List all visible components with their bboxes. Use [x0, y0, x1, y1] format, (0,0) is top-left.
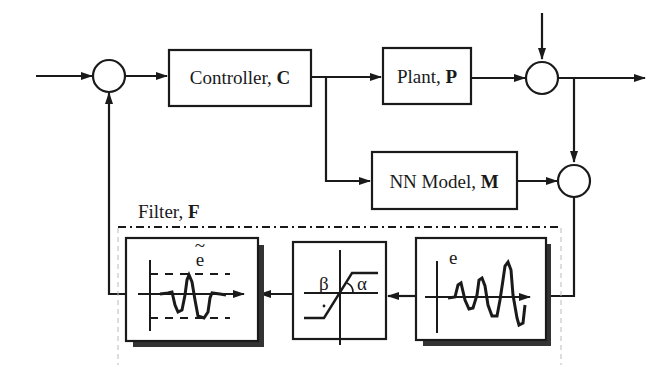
feedback-arrow [109, 93, 126, 294]
nn-model-label: NN Model, M [389, 171, 498, 192]
plant-label: Plant, P [397, 66, 458, 87]
control-block-diagram: Controller, C Plant, P NN Model, M Filte… [0, 0, 672, 380]
filter-label: Filter, F [138, 201, 200, 222]
filtered-error-tilde: ~ [195, 235, 205, 256]
beta-label: β [319, 273, 329, 294]
filter-stage-saturation [293, 242, 386, 345]
summing-junction-2 [526, 62, 558, 94]
filter-stage-input-signal [416, 238, 551, 346]
summing-junction-1 [93, 60, 125, 92]
branch-to-nn-model [326, 77, 370, 181]
controller-label: Controller, C [190, 67, 291, 88]
summing-junction-3 [558, 165, 590, 197]
error-signal-label: e [449, 247, 457, 268]
alpha-label: α [357, 273, 367, 294]
